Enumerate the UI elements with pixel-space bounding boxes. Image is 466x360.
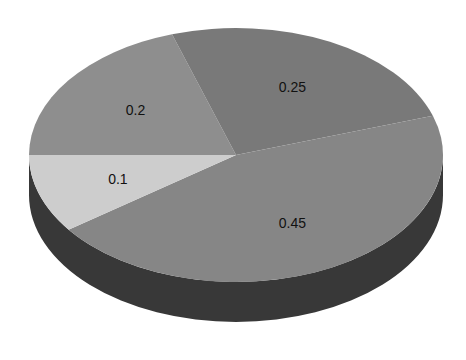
- slice-label: 0.1: [108, 171, 128, 187]
- slice-label: 0.2: [126, 102, 146, 118]
- slice-label: 0.45: [279, 215, 306, 231]
- pie-slices: [29, 28, 443, 282]
- pie-chart: 0.20.250.450.1: [0, 0, 466, 360]
- slice-label: 0.25: [279, 79, 306, 95]
